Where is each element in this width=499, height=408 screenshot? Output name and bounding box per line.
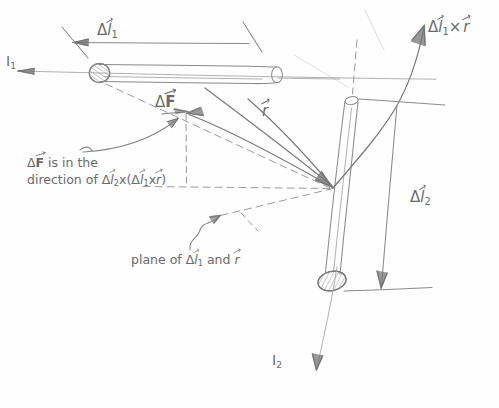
r-vector-secondary-line [248, 99, 332, 186]
label-r-vector: r [262, 102, 268, 121]
faint-construction-lines [278, 10, 384, 87]
r-symbol: r [463, 18, 469, 36]
delta-symbol: Δ [155, 93, 165, 111]
label-plane-of: plane of Δl1 and r [131, 252, 240, 269]
r-symbol: r [262, 102, 268, 120]
F-symbol: F [165, 93, 175, 111]
and-text: and [203, 252, 234, 267]
cross-operator: × [449, 18, 462, 36]
l-symbol: l [420, 188, 424, 206]
current-1-axis-line [18, 71, 436, 79]
delta-symbol-2: Δ [102, 172, 111, 187]
note-text-2: direction of [27, 172, 102, 187]
diagram-canvas: .ink { stroke:#8a8a8a; fill:none; stroke… [0, 0, 499, 408]
label-delta-l1-cross-r: Δl1×r [428, 18, 469, 38]
note-delta-F-direction: ΔF is in the direction of Δl2x(Δl1xr) [27, 155, 166, 188]
plane-pointer-curve [190, 215, 222, 251]
delta-symbol-3: Δ [131, 172, 140, 187]
l-symbol: l [194, 252, 197, 267]
current-1-arrowhead [18, 68, 36, 75]
delta-symbol: Δ [97, 21, 107, 39]
note-pointer-hook [80, 147, 92, 151]
close-paren: ) [161, 172, 166, 187]
subscript: 2 [424, 196, 430, 207]
delta-F-arrow [186, 106, 334, 187]
delta-symbol: Δ [186, 252, 195, 267]
r-vector-arrow [205, 88, 334, 189]
note-line-2: direction of Δl2x(Δl1xr) [27, 172, 166, 189]
subscript: 1 [111, 29, 117, 40]
cross-and-paren: x( [119, 172, 131, 187]
l-symbol: l [110, 172, 113, 187]
delta-l1-cross-r-arrow [333, 24, 426, 189]
l-symbol: l [438, 18, 442, 36]
dimension-delta-l1 [62, 22, 262, 58]
label-current-1: I1 [6, 53, 16, 71]
r-symbol-2: r [156, 172, 161, 187]
note-text-1: is in the [44, 155, 98, 170]
plane-text: plane of [131, 252, 186, 267]
delta-symbol: Δ [428, 18, 438, 36]
l-symbol: l [107, 21, 111, 39]
subscript: 2 [276, 359, 282, 370]
note-pointer-curve [83, 118, 180, 153]
rod-element-2 [316, 96, 359, 294]
label-delta-l1: Δl1 [97, 21, 118, 41]
rod2-axis-dashed-extension [353, 40, 358, 94]
F-symbol: F [36, 155, 45, 170]
label-current-2: I2 [272, 352, 282, 370]
label-delta-l2: Δl2 [410, 188, 431, 208]
r-symbol: r [234, 252, 239, 267]
note-line-1: ΔF is in the [27, 155, 166, 171]
label-delta-F: ΔF [155, 93, 176, 112]
delta-symbol: Δ [410, 188, 420, 206]
subscript: 1 [10, 60, 16, 71]
cross-operator-2: x [149, 172, 156, 187]
delta-symbol: Δ [27, 155, 36, 170]
l-symbol-2: l [140, 172, 143, 187]
